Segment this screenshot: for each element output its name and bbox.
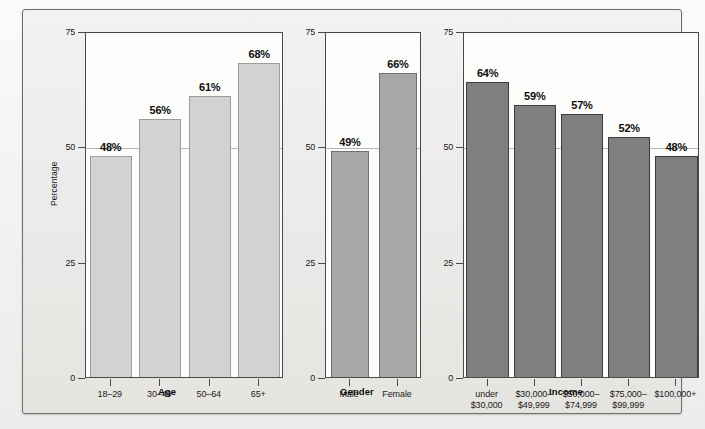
y-axis-tick [318, 32, 325, 33]
bar-value-label: 57% [571, 99, 592, 111]
y-axis-tick [78, 32, 85, 33]
plot-area-gender: 49%66% [325, 32, 421, 378]
y-axis-tick-label: 25 [293, 258, 315, 267]
x-axis-category-line: $99,999 [610, 400, 647, 411]
x-axis-tick [628, 379, 629, 386]
y-axis-tick [456, 378, 463, 379]
x-axis-tick [349, 379, 350, 386]
bar-group-gender: 49%66% [326, 33, 420, 377]
bar-value-label: 64% [477, 67, 498, 79]
bar-group-income: 64%59%57%52%48% [464, 33, 698, 377]
panel-age: Percentage 48%56%61%68% 0255075 18–2930–… [47, 10, 287, 413]
y-axis-tick-label: 75 [53, 28, 75, 37]
x-axis-title-gender: Gender [289, 386, 425, 397]
chart-figure: Percentage 48%56%61%68% 0255075 18–2930–… [0, 0, 705, 429]
bar: 48% [90, 156, 132, 377]
bar: 56% [139, 119, 181, 377]
y-axis-tick-label: 0 [293, 374, 315, 383]
y-axis-tick-label: 0 [53, 374, 75, 383]
x-axis-category-line: $30,000 [471, 400, 503, 411]
bar-value-label: 48% [100, 141, 121, 153]
bar: 48% [655, 156, 697, 377]
x-axis-tick [487, 379, 488, 386]
x-axis-tick [258, 379, 259, 386]
x-axis-category-line: $49,999 [515, 400, 552, 411]
y-axis-tick [78, 263, 85, 264]
plot-area-age: 48%56%61%68% [85, 32, 283, 378]
x-axis-tick [397, 379, 398, 386]
y-axis-tick-label: 25 [53, 258, 75, 267]
y-axis-tick [456, 263, 463, 264]
y-axis-tick-label: 50 [431, 143, 453, 152]
y-axis-tick-label: 25 [431, 258, 453, 267]
y-axis-tick [456, 147, 463, 148]
y-axis-tick-label: 75 [431, 28, 453, 37]
x-axis-tick [675, 379, 676, 386]
bar: 49% [331, 151, 368, 377]
bar: 59% [514, 105, 556, 377]
bar-value-label: 66% [387, 58, 408, 70]
x-axis-tick [159, 379, 160, 386]
x-axis-tick [581, 379, 582, 386]
y-axis-tick-label: 0 [431, 374, 453, 383]
bar: 61% [189, 96, 231, 377]
bar: 66% [379, 73, 416, 377]
bar: 57% [561, 114, 603, 377]
bar-value-label: 52% [618, 122, 639, 134]
bar: 68% [238, 63, 280, 377]
bar-value-label: 48% [666, 141, 687, 153]
bar-value-label: 49% [339, 136, 360, 148]
bar: 52% [608, 137, 650, 377]
y-axis-title: Percentage [49, 162, 59, 206]
y-axis-tick-label: 75 [293, 28, 315, 37]
y-axis-tick [318, 263, 325, 264]
bar-value-label: 56% [150, 104, 171, 116]
x-axis-tick [110, 379, 111, 386]
plot-area-income: 64%59%57%52%48% [463, 32, 699, 378]
y-axis-tick [318, 378, 325, 379]
y-axis-tick-label: 50 [53, 143, 75, 152]
y-axis-tick [318, 147, 325, 148]
y-axis-tick-label: 50 [293, 143, 315, 152]
bar-group-age: 48%56%61%68% [86, 33, 282, 377]
y-axis-tick [456, 32, 463, 33]
bar-value-label: 68% [249, 48, 270, 60]
y-axis-tick [78, 378, 85, 379]
x-axis-title-income: Income [427, 386, 705, 397]
x-axis-tick [209, 379, 210, 386]
x-axis-title-age: Age [47, 386, 287, 397]
y-axis-tick [78, 147, 85, 148]
x-axis-tick [534, 379, 535, 386]
panel-gender: 49%66% 0255075 MaleFemale Gender [289, 10, 425, 413]
panel-income: 64%59%57%52%48% 0255075 under$30,000$30,… [427, 10, 705, 413]
chart-frame: Percentage 48%56%61%68% 0255075 18–2930–… [22, 9, 682, 414]
x-axis-category-line: $74,999 [563, 400, 600, 411]
bar-value-label: 59% [524, 90, 545, 102]
bar-value-label: 61% [199, 81, 220, 93]
bar: 64% [466, 82, 508, 377]
